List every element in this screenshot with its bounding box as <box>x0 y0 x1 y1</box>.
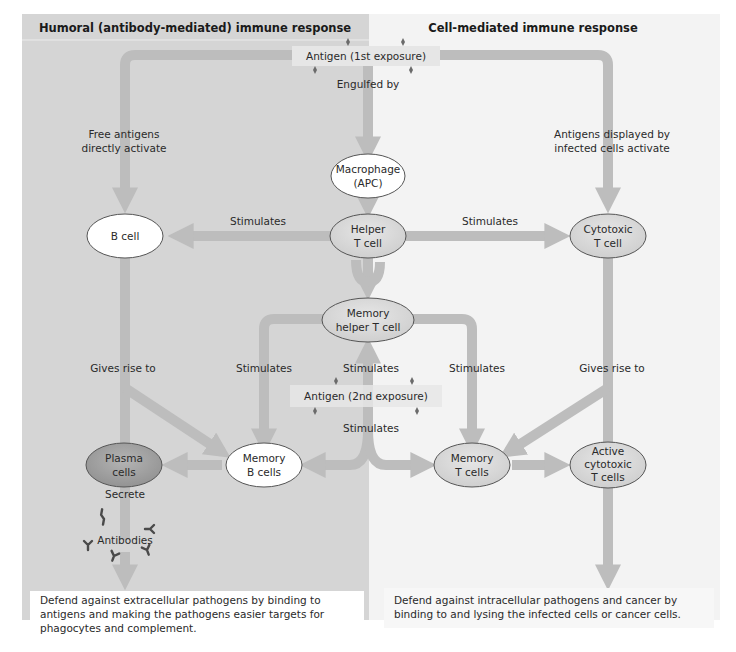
node-memory-helper-t-cell: Memory helper T cell <box>322 298 414 342</box>
antibodies-label: Antibodies <box>97 534 152 546</box>
label-free-antigens-2: directly activate <box>82 142 167 154</box>
svg-text:Memory: Memory <box>347 307 390 319</box>
svg-text:T cell: T cell <box>353 237 382 249</box>
node-macrophage: Macrophage (APC) <box>331 154 405 198</box>
humoral-title: Humoral (antibody-mediated) immune respo… <box>39 21 351 35</box>
svg-text:cytotoxic: cytotoxic <box>584 458 632 470</box>
node-b-cell: B cell <box>87 214 163 258</box>
label-gives-rise-b: Gives rise to <box>90 362 156 374</box>
svg-text:(APC): (APC) <box>353 177 382 189</box>
svg-text:Plasma: Plasma <box>105 452 143 464</box>
svg-text:Cytotoxic: Cytotoxic <box>583 223 632 235</box>
node-plasma-cells: Plasma cells <box>86 443 162 487</box>
svg-text:B cell: B cell <box>111 230 140 242</box>
immune-response-diagram: Humoral (antibody-mediated) immune respo… <box>0 0 736 652</box>
cell-mediated-title: Cell-mediated immune response <box>428 21 638 35</box>
node-memory-t-cells: Memory T cells <box>434 443 510 487</box>
label-antigens-displayed-1: Antigens displayed by <box>554 128 670 140</box>
antigen-second-label: Antigen (2nd exposure) <box>304 390 428 402</box>
label-stimulates-memory-t: Stimulates <box>449 362 505 374</box>
label-engulfed-by: Engulfed by <box>337 78 400 90</box>
antigen-first-label: Antigen (1st exposure) <box>306 50 426 62</box>
node-helper-t-cell: Helper T cell <box>330 214 406 258</box>
node-cytotoxic-t-cell: Cytotoxic T cell <box>570 214 646 258</box>
label-free-antigens-1: Free antigens <box>89 128 160 140</box>
svg-text:B cells: B cells <box>247 466 281 478</box>
svg-text:helper T cell: helper T cell <box>336 321 401 333</box>
svg-text:Helper: Helper <box>351 223 386 235</box>
humoral-outcome-text: Defend against extracellular pathogens b… <box>40 593 362 635</box>
svg-text:cells: cells <box>112 466 136 478</box>
cell-mediated-outcome-text: Defend against intracellular pathogens a… <box>394 593 704 621</box>
diagram-canvas: Humoral (antibody-mediated) immune respo… <box>0 0 736 652</box>
svg-text:T cells: T cells <box>454 466 488 478</box>
node-memory-b-cells: Memory B cells <box>226 443 302 487</box>
svg-text:T cells: T cells <box>590 471 624 483</box>
svg-text:T cell: T cell <box>593 237 622 249</box>
label-stimulates-bcell: Stimulates <box>230 215 286 227</box>
label-secrete: Secrete <box>105 488 145 500</box>
label-stimulates-second: Stimulates <box>343 422 399 434</box>
svg-text:Memory: Memory <box>451 452 494 464</box>
label-stimulates-memory-b: Stimulates <box>236 362 292 374</box>
label-stimulates-memhelper: Stimulates <box>343 362 399 374</box>
svg-text:Macrophage: Macrophage <box>336 163 401 175</box>
svg-text:Memory: Memory <box>243 452 286 464</box>
label-antigens-displayed-2: infected cells activate <box>554 142 669 154</box>
node-active-cytotoxic-t-cells: Active cytotoxic T cells <box>570 442 646 488</box>
label-gives-rise-cytotoxic: Gives rise to <box>579 362 645 374</box>
svg-text:Active: Active <box>592 445 624 457</box>
label-stimulates-cytotoxic: Stimulates <box>462 215 518 227</box>
